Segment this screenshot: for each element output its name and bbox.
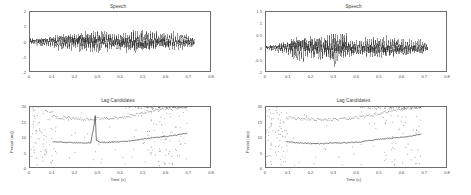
plot-area [265, 11, 447, 72]
panel-title: Lag Candidates [236, 98, 471, 104]
ytick: 20 [250, 104, 262, 109]
xtick: 0.6 [163, 170, 169, 175]
xtick: 0.8 [444, 74, 450, 79]
panel-top-right-speech: Speech 1.5 1 0.5 0 -0.5 -1 0 0.1 0.2 0.3… [236, 2, 471, 96]
xtick: 0.4 [117, 74, 123, 79]
xtick: 0.3 [330, 170, 336, 175]
plot-area [29, 106, 211, 168]
xtick: 0.4 [353, 170, 359, 175]
panel-title: Lag Candidates [0, 98, 236, 104]
xtick: 0 [264, 74, 266, 79]
xtick: 0.5 [376, 170, 382, 175]
panel-title: Speech [0, 4, 236, 10]
xtick: 0.8 [444, 170, 450, 175]
ytick: -2 [14, 70, 26, 75]
plot-area [29, 11, 211, 72]
xtick: 0.6 [399, 74, 405, 79]
ytick: 0.5 [248, 33, 262, 38]
xtick: 0.2 [308, 74, 314, 79]
xtick: 0.2 [72, 170, 78, 175]
xtick: 0.3 [94, 74, 100, 79]
ytick: 1.5 [248, 9, 262, 14]
xtick: 0.6 [163, 74, 169, 79]
xtick: 0.1 [285, 170, 291, 175]
ytick: 10 [14, 135, 26, 140]
ytick: -1 [248, 70, 262, 75]
xtick: 0.2 [72, 74, 78, 79]
xtick: 0.1 [49, 74, 55, 79]
x-axis-label: Time (s) [0, 177, 236, 182]
xtick: 0.4 [117, 170, 123, 175]
xtick: 0.5 [140, 170, 146, 175]
xtick: 0.5 [140, 74, 146, 79]
speech-waveform-right [266, 12, 446, 71]
lag-scatter-left [30, 107, 210, 167]
figure-canvas: Speech 2 1 0 -1 -2 0 0.1 0.2 0.3 0.4 0.5… [0, 0, 471, 195]
ytick: 0 [14, 39, 26, 44]
xtick: 0 [28, 170, 30, 175]
ytick: 2 [14, 9, 26, 14]
panel-title: Speech [236, 4, 471, 10]
x-axis-label: Time (s) [236, 177, 471, 182]
xtick: 0.1 [285, 74, 291, 79]
ytick: 0 [14, 166, 26, 171]
xtick: 0.3 [330, 74, 336, 79]
xtick: 0.6 [399, 170, 405, 175]
plot-area [265, 106, 447, 168]
xtick: 0 [28, 74, 30, 79]
lag-scatter-right [266, 107, 446, 167]
ytick: -0.5 [248, 57, 262, 62]
ytick: 20 [14, 104, 26, 109]
ytick: 0 [248, 45, 262, 50]
xtick: 0.2 [308, 170, 314, 175]
panel-bottom-left-lag: Lag Candidates Period (ms) 20 15 10 5 0 … [0, 97, 236, 195]
xtick: 0 [264, 170, 266, 175]
xtick: 0.5 [376, 74, 382, 79]
ytick: 5 [250, 150, 262, 155]
xtick: 0.4 [353, 74, 359, 79]
ytick: 0 [250, 166, 262, 171]
ytick: 15 [14, 119, 26, 124]
xtick: 0.7 [185, 74, 191, 79]
ytick: 15 [250, 119, 262, 124]
xtick: 0.7 [421, 74, 427, 79]
speech-waveform-left [30, 12, 210, 71]
ytick: 1 [14, 24, 26, 29]
xtick: 0.3 [94, 170, 100, 175]
ytick: -1 [14, 54, 26, 59]
xtick: 0.8 [208, 170, 214, 175]
xtick: 0.7 [185, 170, 191, 175]
panel-bottom-right-lag: Lag Candidates Period (ms) 20 15 10 5 0 … [236, 97, 471, 195]
xtick: 0.1 [49, 170, 55, 175]
xtick: 0.8 [208, 74, 214, 79]
xtick: 0.7 [421, 170, 427, 175]
ytick: 1 [248, 21, 262, 26]
ytick: 5 [14, 150, 26, 155]
panel-top-left-speech: Speech 2 1 0 -1 -2 0 0.1 0.2 0.3 0.4 0.5… [0, 2, 236, 96]
ytick: 10 [250, 135, 262, 140]
